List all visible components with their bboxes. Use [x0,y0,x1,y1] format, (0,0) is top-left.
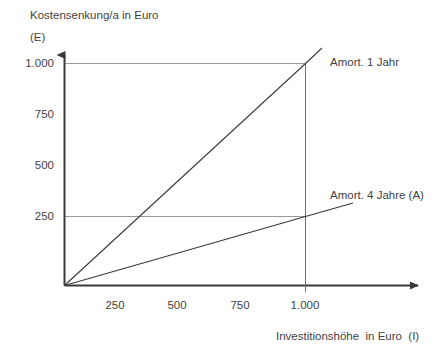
axes [65,55,419,286]
y-tick-label-1000: 1.000 [8,58,54,70]
series-amort-1-jahr [65,48,323,286]
series-label-amort-1-jahr: Amort. 1 Jahr [330,57,399,69]
series-label-amort-4-jahre: Amort. 4 Jahre (A) [330,190,424,202]
x-tick-label-1000: 1.000 [280,300,330,312]
x-tick-label-500: 500 [152,300,202,312]
chart-title: Kostensenkung/a in Euro [30,10,159,22]
series-amort-4-jahre [65,203,354,286]
y-tick-label-250: 250 [8,211,54,223]
y-axis-symbol-label: (E) [30,32,45,44]
y-tick-label-750: 750 [8,109,54,121]
amortization-chart: Kostensenkung/a in Euro (E) 1.000 750 50… [0,0,435,355]
gridlines [64,64,306,293]
x-axis-title: Investitionshöhe in Euro (I) [276,331,419,343]
x-tick-label-750: 750 [215,300,265,312]
x-tick-label-250: 250 [90,300,140,312]
data-series [65,48,354,286]
y-tick-label-500: 500 [8,160,54,172]
